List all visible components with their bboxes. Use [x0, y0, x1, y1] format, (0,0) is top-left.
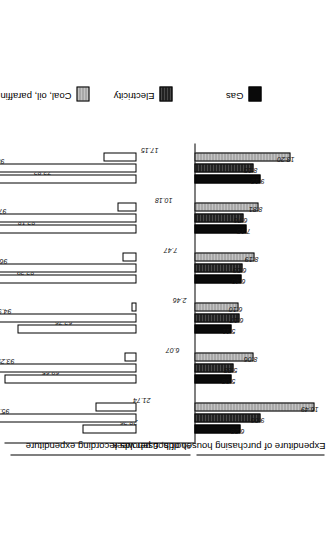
value-label-exp-coal: 8.06 — [243, 356, 257, 363]
value-label-pct-coal: 10.18 — [154, 196, 172, 203]
bar-pct-gas — [0, 275, 136, 284]
value-label-pct-electricity: 98.33 — [0, 157, 4, 164]
value-label-pct-coal: 6.07 — [166, 346, 180, 353]
bar-pct-electricity — [0, 164, 136, 173]
bar-group-0: 28.266.2895.659.0621.7416.49 — [4, 393, 325, 443]
legend-swatch-gas — [248, 86, 261, 101]
value-label-pct-electricity: 97.22 — [0, 207, 6, 214]
chart-figure: % of households recording expenditure Ex… — [0, 0, 329, 547]
value-label-pct-electricity: 93.29 — [0, 357, 14, 364]
bar-pct-electricity — [0, 264, 136, 273]
value-label-exp-electricity: 8.15 — [244, 167, 258, 174]
value-label-pct-electricity: 96.76 — [0, 257, 7, 264]
bar-pct-electricity — [0, 314, 136, 323]
bar-pct-gas — [82, 425, 136, 434]
bar-pct-electricity — [0, 214, 136, 223]
bar-group-2: 62.765.1194.986.172.466.10 — [4, 293, 325, 343]
value-label-exp-gas: 9.12 — [251, 178, 265, 185]
bar-pct-coal — [124, 353, 136, 362]
value-label-exp-coal: 6.10 — [229, 306, 243, 313]
bar-pct-gas — [4, 375, 136, 384]
bar-pct-electricity — [0, 364, 136, 373]
bar-pct-gas — [17, 325, 136, 334]
bar-pct-gas — [0, 225, 136, 234]
bar-pct-coal — [117, 203, 136, 212]
bar-exp-coal — [194, 403, 314, 412]
value-label-exp-coal: 13.20 — [277, 156, 295, 163]
value-label-exp-gas: 5.11 — [222, 328, 235, 335]
value-label-exp-electricity: 5.38 — [224, 367, 238, 374]
legend-label-gas: Gas — [226, 90, 243, 101]
value-label-exp-gas: 6.28 — [230, 428, 244, 435]
value-label-exp-coal: 8.81 — [248, 206, 262, 213]
value-label-pct-electricity: 94.98 — [0, 307, 11, 314]
bar-pct-coal — [103, 153, 136, 162]
bar-group-3: 82.396.4096.766.597.478.19 — [4, 243, 325, 293]
bar-pct-gas — [0, 175, 136, 184]
plot-area: 28.266.2895.659.0621.7416.4969.655.0893.… — [4, 143, 325, 443]
bar-group-4: 82.187.1597.226.7610.188.81 — [4, 193, 325, 243]
value-label-exp-electricity: 6.59 — [232, 267, 246, 274]
value-label-exp-electricity: 6.76 — [234, 217, 248, 224]
value-label-exp-coal: 16.49 — [300, 406, 318, 413]
value-label-exp-coal: 8.19 — [244, 256, 258, 263]
rotated-figure-wrapper: % of households recording expenditure Ex… — [0, 0, 329, 547]
legend-swatch-electricity — [159, 86, 172, 101]
legend-label-coal: Coal, oil, paraffin — [0, 90, 71, 101]
value-label-pct-coal: 7.47 — [163, 246, 177, 253]
value-label-pct-coal: 2.46 — [173, 296, 187, 303]
bottom-axis-title-rule — [196, 454, 324, 455]
legend-label-electricity: Electricity — [113, 90, 154, 101]
bar-pct-coal — [122, 253, 136, 262]
legend-swatch-coal — [76, 86, 89, 101]
bar-group-1: 69.655.0893.295.386.078.06 — [4, 343, 325, 393]
value-label-exp-electricity: 9.06 — [250, 417, 264, 424]
top-axis-title-rule — [10, 454, 190, 455]
value-label-exp-gas: 6.40 — [231, 278, 245, 285]
value-label-pct-coal: 17.15 — [141, 146, 159, 153]
bar-group-5: 73.829.1298.338.1517.1513.20 — [4, 143, 325, 193]
value-label-exp-electricity: 6.17 — [229, 317, 243, 324]
bar-pct-coal — [131, 303, 136, 312]
bar-pct-coal — [95, 403, 136, 412]
value-label-exp-gas: 5.08 — [221, 378, 235, 385]
value-label-pct-coal: 21.74 — [132, 396, 150, 403]
bar-pct-electricity — [0, 414, 136, 423]
value-label-exp-gas: 7.15 — [236, 228, 250, 235]
value-label-pct-electricity: 95.65 — [0, 407, 9, 414]
